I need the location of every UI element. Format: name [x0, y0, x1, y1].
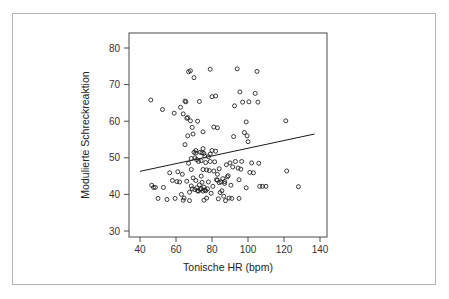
y-tick-label: 30 [109, 226, 121, 237]
x-tick-label: 120 [276, 244, 293, 255]
scatter-point [179, 192, 183, 196]
scatter-point [215, 172, 219, 176]
y-tick-label: 80 [109, 43, 121, 54]
scatter-point [168, 171, 172, 175]
y-tick-label: 70 [109, 79, 121, 90]
scatter-point [188, 199, 192, 203]
scatter-point [188, 119, 192, 123]
scatter-point [161, 185, 165, 189]
scatter-point [149, 98, 153, 102]
scatter-point [232, 135, 236, 139]
scatter-point [217, 167, 221, 171]
scatter-point [205, 196, 209, 200]
x-axis-ticks: 406080100120140 [134, 237, 328, 255]
scatter-point [187, 161, 191, 165]
scatter-point [207, 169, 211, 173]
scatter-point [222, 194, 226, 198]
scatter-point [256, 100, 260, 104]
scatter-point [235, 67, 239, 71]
scatter-point [178, 180, 182, 184]
scatter-point [165, 198, 169, 202]
x-tick-label: 140 [312, 244, 329, 255]
scatter-point [208, 159, 212, 163]
scatter-point [199, 159, 203, 163]
x-tick-label: 40 [134, 244, 146, 255]
scatter-point [228, 161, 232, 165]
y-tick-label: 40 [109, 189, 121, 200]
scatter-point [229, 183, 233, 187]
y-tick-label: 50 [109, 152, 121, 163]
scatter-point [212, 169, 216, 173]
scatter-point [250, 161, 254, 165]
x-tick-label: 60 [170, 244, 182, 255]
scatter-point [240, 159, 244, 163]
scatter-point [196, 119, 200, 123]
regression-line [140, 134, 315, 171]
scatter-point [199, 174, 203, 178]
x-tick-label: 100 [240, 244, 257, 255]
scatter-point [244, 186, 248, 190]
scatter-point [200, 180, 204, 184]
scatter-point [224, 199, 228, 203]
scatter-point [213, 160, 217, 164]
scatter-chart: 406080100120140 304050607080 Tonische HR… [0, 0, 449, 299]
scatter-point [237, 196, 241, 200]
scatter-point [245, 134, 249, 138]
plot-box [129, 33, 327, 237]
scatter-point [161, 107, 165, 111]
scatter-point [209, 191, 213, 195]
scatter-point [183, 143, 187, 147]
trend-line [140, 134, 315, 171]
scatter-point [186, 134, 190, 138]
scatter-point [237, 178, 241, 182]
scatter-point [194, 178, 198, 182]
scatter-point [247, 100, 251, 104]
scatter-point [156, 196, 160, 200]
scatter-point [216, 197, 220, 201]
scatter-point [190, 125, 194, 129]
scatter-point [180, 172, 184, 176]
y-axis-title: Modulierte Schreckreaktion [79, 71, 91, 198]
scatter-point [192, 76, 196, 80]
scatter-point [238, 90, 242, 94]
scatter-point [244, 120, 248, 124]
scatter-point [185, 179, 189, 183]
scatter-point [197, 99, 201, 103]
scatter-point [208, 67, 212, 71]
scatter-point [202, 198, 206, 202]
scatter-point [284, 119, 288, 123]
scatter-point [201, 130, 205, 134]
x-tick-label: 80 [206, 244, 218, 255]
scatter-point [231, 165, 235, 169]
scatter-point [191, 132, 195, 136]
scatter-point [176, 170, 180, 174]
scatter-point [226, 174, 230, 178]
scatter-point [296, 185, 300, 189]
x-axis-title: Tonische HR (bpm) [183, 261, 273, 273]
scatter-point [201, 147, 205, 151]
scatter-point [172, 111, 176, 115]
scatter-point [285, 169, 289, 173]
y-axis-ticks: 304050607080 [109, 43, 129, 237]
scatter-point [173, 196, 177, 200]
scatter-point [255, 69, 259, 73]
scatter-point [179, 105, 183, 109]
scatter-point [181, 112, 185, 116]
scatter-point [211, 184, 215, 188]
scatter-point [206, 180, 210, 184]
data-points [149, 67, 301, 203]
y-tick-label: 60 [109, 116, 121, 127]
scatter-point [233, 104, 237, 108]
scatter-point [189, 168, 193, 172]
scatter-point [253, 91, 257, 95]
scatter-point [170, 178, 174, 182]
scatter-point [230, 196, 234, 200]
scatter-point [204, 161, 208, 165]
scatter-point [241, 100, 245, 104]
scatter-point [233, 159, 237, 163]
scatter-point [246, 140, 250, 144]
chart-svg: 406080100120140 304050607080 Tonische HR… [0, 0, 449, 299]
scatter-point [257, 161, 261, 165]
